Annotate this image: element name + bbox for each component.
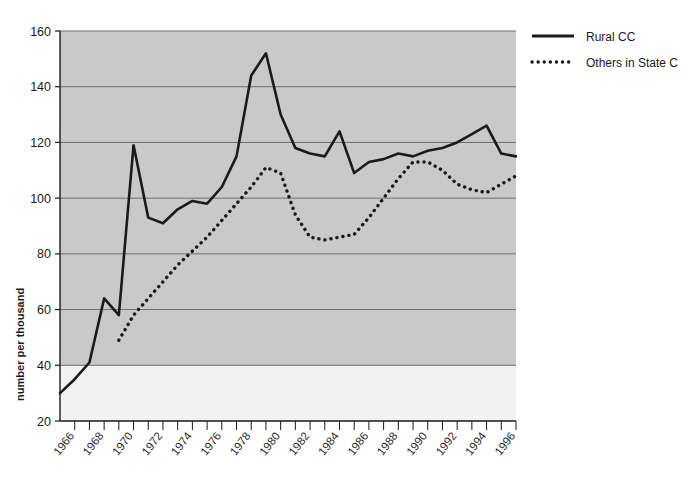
plot-background-lower xyxy=(60,365,516,421)
x-axis-tick-label: 1970 xyxy=(110,430,135,458)
x-axis-tick-label: 1986 xyxy=(345,430,370,458)
x-axis-tick-label: 1978 xyxy=(228,430,253,458)
x-axis-tick-label: 1988 xyxy=(375,430,400,458)
x-axis-tick-label: 1966 xyxy=(51,430,76,458)
chart-page: 2040608010012014016019661968197019721974… xyxy=(0,0,696,477)
x-axis-tick-label: 1994 xyxy=(463,429,489,457)
x-axis-tick-label: 1980 xyxy=(257,430,282,458)
y-axis-tick-label: 100 xyxy=(30,192,51,206)
y-axis-tick-label: 80 xyxy=(37,247,51,261)
x-axis-tick-label: 1996 xyxy=(492,430,517,458)
x-axis-tick-label: 1974 xyxy=(169,429,195,457)
x-axis-tick-label: 1968 xyxy=(80,430,105,458)
x-axis-tick-label: 1984 xyxy=(316,429,342,457)
y-axis-tick-label: 40 xyxy=(37,359,51,373)
plot-background xyxy=(60,31,516,421)
y-axis-tick-label: 20 xyxy=(37,415,51,429)
x-axis-tick-label: 1976 xyxy=(198,430,223,458)
y-axis-tick-label: 120 xyxy=(30,136,51,150)
x-axis-tick-label: 1990 xyxy=(404,430,429,458)
y-axis-tick-label: 140 xyxy=(30,80,51,94)
x-axis-tick-label: 1992 xyxy=(434,430,459,458)
legend-label-1: Rural CC xyxy=(586,30,636,44)
y-axis-title: number per thousand xyxy=(14,288,26,401)
y-axis-tick-label: 160 xyxy=(30,25,51,39)
x-axis-tick-label: 1982 xyxy=(286,430,311,458)
line-chart: 2040608010012014016019661968197019721974… xyxy=(0,0,696,477)
legend-label-2: Others in State C xyxy=(586,56,678,70)
x-axis-tick-label: 1972 xyxy=(139,430,164,458)
y-axis-tick-label: 60 xyxy=(37,303,51,317)
